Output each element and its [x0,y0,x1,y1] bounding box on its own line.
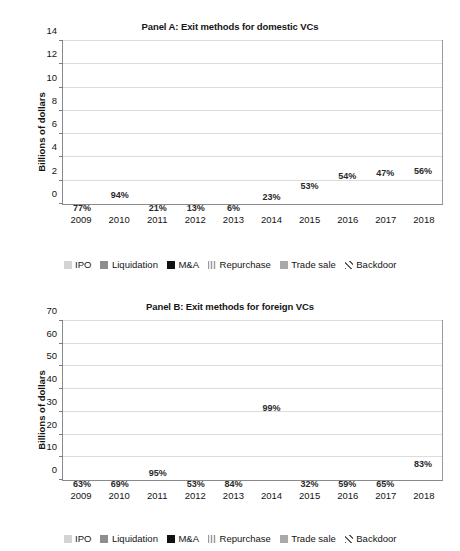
panel-a: Panel A: Exit methods for domestic VCs B… [0,0,460,280]
bar-percent-label: 32% [300,479,318,489]
y-axis-tick-label: 0 [52,464,57,475]
x-axis-tick-2011: 2011 [138,490,176,501]
bar-percent-label: 53% [300,181,318,191]
bar-group-2011[interactable]: 21% [139,41,177,204]
panel-a-legend: IPOLiquidationM&ARepurchaseTrade saleBac… [0,259,460,270]
x-axis-tick-2017: 2017 [367,490,405,501]
bar-group-2018[interactable]: 56% [404,41,442,204]
legend-item-ipo[interactable]: IPO [64,533,92,544]
x-axis-tick-2012: 2012 [176,490,214,501]
bar-group-2013[interactable]: 84% [215,321,253,480]
legend-swatch-mna [167,535,175,543]
legend-item-mna[interactable]: M&A [167,533,199,544]
x-axis-tick-2010: 2010 [100,214,138,225]
legend-item-tradesale[interactable]: Trade sale [280,259,336,270]
y-axis-tick-label: 50 [46,350,57,361]
bar-group-2017[interactable]: 47% [366,41,404,204]
legend-item-liquidation[interactable]: Liquidation [100,259,157,270]
bar-percent-label: 56% [414,166,432,176]
x-axis-tick-2014: 2014 [252,490,290,501]
legend-item-backdoor[interactable]: Backdoor [345,259,397,270]
y-axis-tick-label: 60 [46,327,57,338]
x-axis-tick-2009: 2009 [62,490,100,501]
bar-group-2010[interactable]: 69% [101,321,139,480]
bar-group-2016[interactable]: 54% [328,41,366,204]
x-axis-tick-2017: 2017 [367,214,405,225]
legend-label-mna: M&A [178,259,199,270]
y-axis-tick-label: 4 [52,141,57,152]
legend-label-repurchase: Repurchase [220,259,271,270]
legend-label-liquidation: Liquidation [112,259,158,270]
bar-group-2010[interactable]: 94% [101,41,139,204]
bar-percent-label: 63% [73,479,91,489]
panel-b: Panel B: Exit methods for foreign VCs Bi… [0,281,460,551]
bar-percent-label: 77% [73,203,91,213]
bar-percent-label: 69% [111,479,129,489]
x-axis-tick-2015: 2015 [291,214,329,225]
panel-b-title: Panel B: Exit methods for foreign VCs [0,281,460,312]
legend-item-tradesale[interactable]: Trade sale [280,533,336,544]
x-axis-tick-2009: 2009 [62,214,100,225]
bar-percent-label: 13% [187,203,205,213]
y-axis-tick-label: 30 [46,395,57,406]
y-axis-tick-label: 10 [46,441,57,452]
legend-item-ipo[interactable]: IPO [64,259,92,270]
bar-group-2013[interactable]: 6% [215,41,253,204]
x-axis-tick-2014: 2014 [252,214,290,225]
panel-b-plot-area: Billions of dollars 010203040506070 63%6… [0,312,460,508]
legend-label-tradesale: Trade sale [291,259,336,270]
legend-item-mna[interactable]: M&A [167,259,199,270]
legend-label-liquidation: Liquidation [112,533,158,544]
legend-item-backdoor[interactable]: Backdoor [345,533,397,544]
x-axis-tick-2018: 2018 [405,214,443,225]
bar-group-2018[interactable]: 83% [404,321,442,480]
y-axis-tick-label: 70 [46,305,57,316]
x-axis-tick-2010: 2010 [100,490,138,501]
bar-group-2016[interactable]: 59% [328,321,366,480]
bar-percent-label: 54% [338,171,356,181]
legend-swatch-repurchase [208,261,216,269]
legend-item-repurchase[interactable]: Repurchase [208,259,271,270]
y-axis-tick-label: 6 [52,118,57,129]
bar-group-2014[interactable]: 23% [253,41,291,204]
y-axis-tick-label: 14 [46,25,57,36]
bar-percent-label: 94% [111,190,129,200]
figure-container: Panel A: Exit methods for domestic VCs B… [0,0,460,551]
bar-group-2014[interactable]: 99% [253,321,291,480]
x-axis-tick-2015: 2015 [291,490,329,501]
bar-group-2009[interactable]: 63% [63,321,101,480]
legend-swatch-liquidation [100,535,108,543]
bar-group-2011[interactable]: 95% [139,321,177,480]
legend-item-liquidation[interactable]: Liquidation [100,533,157,544]
bar-group-2015[interactable]: 53% [290,41,328,204]
bar-percent-label: 65% [376,479,394,489]
bar-group-2009[interactable]: 77% [63,41,101,204]
panel-a-title: Panel A: Exit methods for domestic VCs [0,0,460,32]
legend-swatch-tradesale [280,261,288,269]
bar-percent-label: 59% [338,479,356,489]
legend-label-tradesale: Trade sale [291,533,336,544]
x-axis-tick-2018: 2018 [405,490,443,501]
x-axis-tick-2016: 2016 [329,490,367,501]
legend-label-ipo: IPO [75,259,91,270]
bar-percent-label: 53% [187,479,205,489]
panel-b-bars: 63%69%95%53%84%99%32%59%65%83% [63,321,442,480]
bar-group-2015[interactable]: 32% [290,321,328,480]
legend-swatch-repurchase [208,535,216,543]
bar-group-2012[interactable]: 53% [177,321,215,480]
panel-a-plot-area: Billions of dollars 02468101214 77%94%21… [0,32,460,232]
bar-group-2012[interactable]: 13% [177,41,215,204]
legend-label-backdoor: Backdoor [356,533,396,544]
legend-swatch-ipo [64,535,72,543]
bar-percent-label: 99% [262,403,280,413]
legend-item-repurchase[interactable]: Repurchase [208,533,271,544]
legend-swatch-backdoor [345,535,353,543]
bar-percent-label: 95% [149,468,167,478]
bar-group-2017[interactable]: 65% [366,321,404,480]
panel-a-x-axis: 2009201020112012201320142015201620172018 [62,214,443,225]
x-axis-tick-2013: 2013 [214,490,252,501]
panel-b-axes: 010203040506070 63%69%95%53%84%99%32%59%… [62,320,443,481]
y-axis-tick-label: 2 [52,164,57,175]
x-axis-tick-2013: 2013 [214,214,252,225]
bar-percent-label: 23% [262,192,280,202]
